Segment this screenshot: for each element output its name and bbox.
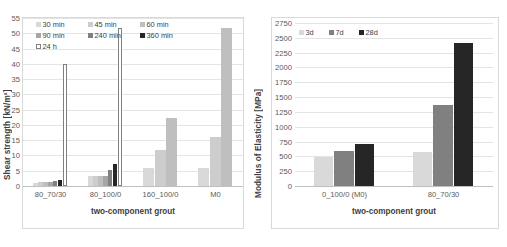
bar <box>88 176 92 186</box>
legend-swatch <box>88 22 93 27</box>
legend-swatch <box>299 30 304 35</box>
bar <box>33 183 37 186</box>
y-axis-tick-label: 0 <box>270 182 292 191</box>
legend-swatch <box>36 22 41 27</box>
x-axis-line <box>23 186 243 187</box>
x-axis-tick-label: 160_100/0 <box>133 190 188 199</box>
bar <box>433 105 453 186</box>
x-axis-tick-label: 80_70/30 <box>394 190 493 199</box>
bar <box>355 144 375 186</box>
y-axis-tick-label: 1500 <box>270 93 292 102</box>
legend-label: 360 min <box>147 31 173 40</box>
bar <box>53 181 57 186</box>
x-axis-line <box>295 186 493 187</box>
y-axis-tick-label: 1750 <box>270 78 292 87</box>
y-axis-tick-label: 55 <box>6 14 20 23</box>
y-axis-tick-label: 20 <box>6 120 20 129</box>
chart-modulus-of-elasticity: Modulus of Elasticity [MPa] 025050075010… <box>253 0 507 247</box>
y-axis-tick-label: 500 <box>270 152 292 161</box>
legend-item: 28d <box>359 28 389 37</box>
chart-shear-strength: Shear strength [kN/m²] 05101520253035404… <box>0 0 253 247</box>
bar <box>143 168 154 186</box>
y-axis-tick-label: 5 <box>6 166 20 175</box>
y-axis-tick-label: 45 <box>6 44 20 53</box>
y-axis-tick-label: 750 <box>270 137 292 146</box>
legend-label: 28d <box>366 28 378 37</box>
y-axis-tick-label: 2500 <box>270 33 292 42</box>
bar <box>198 168 209 186</box>
figure-container: Shear strength [kN/m²] 05101520253035404… <box>0 0 507 247</box>
y-axis-tick-label: 10 <box>6 151 20 160</box>
bar <box>155 150 166 186</box>
legend-item: 7d <box>329 28 359 37</box>
y-axis-tick-label: 2250 <box>270 48 292 57</box>
y-axis-tick-label: 50 <box>6 29 20 38</box>
y-axis-label-right: Modulus of Elasticity [MPa] <box>254 48 263 198</box>
legend-label: 240 min <box>95 31 121 40</box>
bar <box>48 182 52 186</box>
x-axis-label-left: two-component grout <box>23 207 243 216</box>
legend-right: 3d7d28d <box>299 28 449 39</box>
legend-label: 90 min <box>43 31 65 40</box>
y-axis-tick-label: 0 <box>6 182 20 191</box>
bar <box>63 64 67 186</box>
legend-item: 45 min <box>88 20 140 29</box>
y-axis-tick-label: 2000 <box>270 63 292 72</box>
bar <box>454 43 474 186</box>
legend-label: 7d <box>336 28 344 37</box>
legend-item: 60 min <box>140 20 192 29</box>
bar <box>108 170 112 186</box>
y-axis-tick-label: 2750 <box>270 19 292 28</box>
y-axis-tick-label: 250 <box>270 167 292 176</box>
x-axis-tick-label: M0 <box>188 190 243 199</box>
y-axis-tick-label: 40 <box>6 59 20 68</box>
legend-swatch <box>359 30 364 35</box>
bar <box>210 137 221 186</box>
bar <box>93 176 97 186</box>
legend-item: 90 min <box>36 31 88 40</box>
legend-label: 45 min <box>95 20 117 29</box>
bar <box>38 182 42 186</box>
legend-label: 60 min <box>147 20 169 29</box>
y-axis-tick-label: 1000 <box>270 122 292 131</box>
x-axis-tick-label: 80_70/30 <box>23 190 78 199</box>
bar <box>98 176 102 186</box>
bar <box>166 118 177 186</box>
bar <box>43 182 47 186</box>
y-axis-tick-label: 1250 <box>270 107 292 116</box>
y-axis-tick-label: 35 <box>6 75 20 84</box>
bar <box>58 180 62 186</box>
x-axis-tick-label: 80_100/0 <box>78 190 133 199</box>
bar <box>413 152 433 186</box>
bar-series-group-right <box>295 23 493 186</box>
legend-label: 30 min <box>43 20 65 29</box>
legend-item: 240 min <box>88 31 140 40</box>
legend-item: 24 h <box>36 42 88 51</box>
y-axis-tick-label: 15 <box>6 136 20 145</box>
y-axis-tick-label: 25 <box>6 105 20 114</box>
legend-swatch <box>140 22 145 27</box>
legend-item: 30 min <box>36 20 88 29</box>
bar <box>103 176 107 186</box>
legend-label: 3d <box>306 28 314 37</box>
legend-swatch <box>36 44 41 49</box>
legend-item: 3d <box>299 28 329 37</box>
bar <box>113 164 117 186</box>
legend-swatch <box>88 33 93 38</box>
bar <box>334 151 354 186</box>
x-axis-tick-label: 0_100/0 (M0) <box>295 190 394 199</box>
legend-swatch <box>329 30 334 35</box>
legend-swatch <box>36 33 41 38</box>
y-axis-tick-label: 30 <box>6 90 20 99</box>
x-axis-label-right: two-component grout <box>295 207 493 216</box>
legend-label: 24 h <box>43 42 57 51</box>
legend-swatch <box>140 33 145 38</box>
legend-item: 360 min <box>140 31 192 40</box>
legend-left: 30 min45 min60 min90 min240 min360 min24… <box>36 20 241 53</box>
bar <box>314 157 334 186</box>
